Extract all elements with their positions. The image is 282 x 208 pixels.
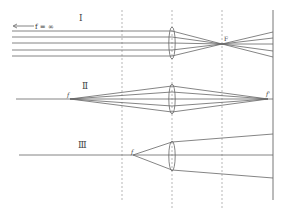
source-label-f: f [66,91,71,99]
image-label-f-prime: f' [265,90,270,98]
case-2-label: Ⅱ [82,81,88,91]
infinity-label: f = ∞ [35,23,54,31]
optics-diagram: Ⅰ f = ∞ F Ⅱ f f' Ⅲ f [0,0,282,208]
case-3 [19,134,273,178]
case-3-label: Ⅲ [78,140,87,150]
case-2 [16,84,273,114]
case-1-label: Ⅰ [79,13,83,23]
focus-label-F: F [224,35,228,42]
